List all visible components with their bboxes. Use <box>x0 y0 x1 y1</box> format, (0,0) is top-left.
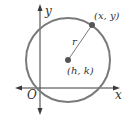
x-axis-label: x <box>115 88 122 102</box>
y-axis-down-arrow-icon <box>38 108 43 115</box>
circle-diagram: y (x, y) r (h, k) O x <box>0 0 133 126</box>
y-axis-up-arrow-icon <box>38 4 43 11</box>
x-axis-left-arrow-icon <box>15 86 22 91</box>
center-point <box>65 57 71 63</box>
radius-label: r <box>72 36 78 47</box>
origin-label: O <box>27 88 37 102</box>
center-label: (h, k) <box>67 65 94 76</box>
y-axis-label: y <box>44 4 52 18</box>
point-label: (x, y) <box>94 10 120 21</box>
circle-point <box>89 22 95 28</box>
